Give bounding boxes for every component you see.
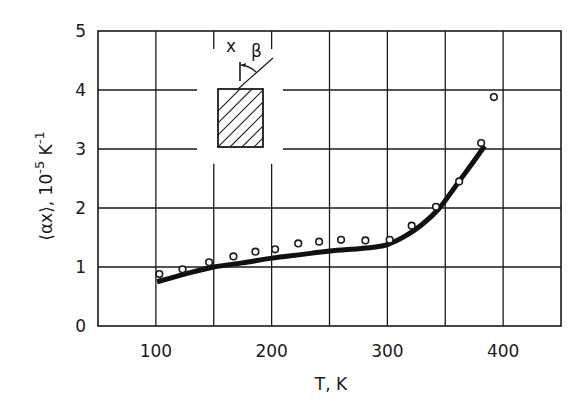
data-point xyxy=(362,237,369,244)
x-tick-label: 400 xyxy=(487,341,519,361)
y-tick-labels: 012345 xyxy=(75,21,86,336)
x-tick-label: 200 xyxy=(255,341,287,361)
y-tick-label: 4 xyxy=(75,80,86,100)
data-point xyxy=(408,222,415,229)
y-tick-label: 2 xyxy=(75,198,86,218)
x-tick-labels: 100200300400 xyxy=(140,341,520,361)
data-point xyxy=(156,271,163,278)
data-point xyxy=(478,140,485,147)
y-axis-label: ⟨αx⟩, 10-5 K-1 xyxy=(32,131,56,240)
y-axis-label-text: ⟨αx⟩, 10-5 K-1 xyxy=(32,131,56,240)
x-axis-label: T, K xyxy=(314,374,348,394)
data-point xyxy=(433,204,440,211)
data-point xyxy=(338,237,345,244)
y-tick-label: 3 xyxy=(75,139,86,159)
x-tick-label: 300 xyxy=(371,341,403,361)
data-point xyxy=(252,248,259,255)
hatching xyxy=(182,89,360,147)
data-point xyxy=(230,253,237,260)
data-point xyxy=(179,266,186,273)
beta-direction-line xyxy=(238,58,273,89)
chart: xβ 012345 100200300400 T, K ⟨αx⟩, 10-5 K… xyxy=(0,0,587,418)
y-tick-label: 5 xyxy=(75,21,86,41)
inset-label-beta: β xyxy=(251,41,262,61)
data-point xyxy=(295,240,302,247)
y-tick-label: 1 xyxy=(75,257,86,277)
data-point xyxy=(456,178,463,185)
data-point xyxy=(316,238,323,245)
grid xyxy=(98,31,561,326)
data-point xyxy=(272,246,279,253)
inset-label-x: x xyxy=(226,36,236,56)
data-point xyxy=(386,237,393,244)
data-point xyxy=(491,94,498,101)
inset-diagram: xβ xyxy=(182,36,360,147)
x-tick-label: 100 xyxy=(140,341,172,361)
hatched-sample xyxy=(218,89,263,147)
y-tick-label: 0 xyxy=(75,316,86,336)
data-point xyxy=(206,259,213,266)
